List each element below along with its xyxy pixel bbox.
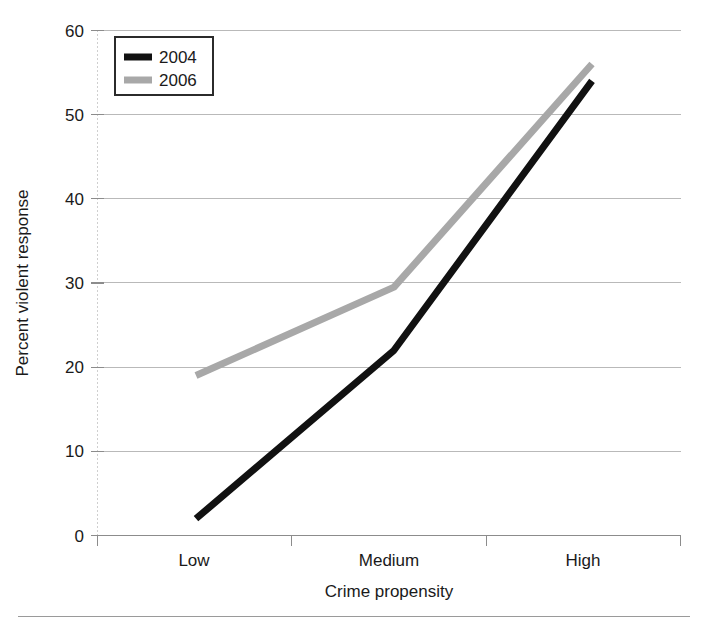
legend: 2004 2006 bbox=[115, 37, 213, 95]
y-tick-label-20: 20 bbox=[65, 358, 84, 377]
y-tick-label-50: 50 bbox=[65, 106, 84, 125]
y-tick-label-10: 10 bbox=[65, 442, 84, 461]
x-tick-label-high: High bbox=[566, 551, 601, 570]
y-tick-label-60: 60 bbox=[65, 22, 84, 41]
legend-label-2004: 2004 bbox=[159, 48, 197, 67]
line-chart: 60 50 40 30 20 10 0 Low Medium High Crim… bbox=[0, 0, 704, 623]
y-tick-label-30: 30 bbox=[65, 274, 84, 293]
x-tick-label-low: Low bbox=[178, 551, 210, 570]
chart-figure: 60 50 40 30 20 10 0 Low Medium High Crim… bbox=[0, 0, 704, 623]
y-tick-label-40: 40 bbox=[65, 190, 84, 209]
chart-background bbox=[0, 0, 704, 623]
legend-label-2006: 2006 bbox=[159, 71, 197, 90]
y-tick-label-0: 0 bbox=[75, 527, 84, 546]
y-axis-title: Percent violent response bbox=[13, 189, 32, 376]
x-axis-title: Crime propensity bbox=[325, 582, 454, 601]
x-tick-label-medium: Medium bbox=[359, 551, 419, 570]
